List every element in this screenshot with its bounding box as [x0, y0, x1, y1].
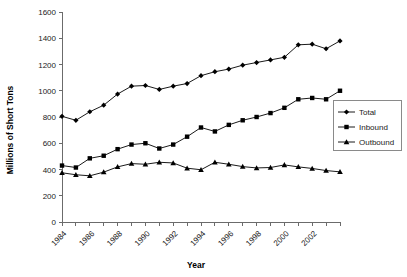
y-tick-label: 600: [43, 139, 57, 148]
data-point-diamond: [185, 81, 190, 86]
series-total: [59, 38, 342, 123]
y-axis: 02004006008001000120014001600: [38, 8, 62, 227]
series-container: [59, 38, 343, 178]
y-tick-label: 400: [43, 166, 57, 175]
data-point-square: [241, 118, 245, 122]
line-chart: 02004006008001000120014001600 1984198619…: [0, 0, 407, 277]
data-point-square: [74, 165, 78, 169]
data-point-square: [171, 142, 175, 146]
x-tick-label: 1990: [133, 229, 152, 248]
data-point-square: [254, 115, 258, 119]
y-tick-label: 1200: [38, 61, 56, 70]
data-point-square: [227, 123, 231, 127]
series-outbound: [59, 159, 343, 178]
data-point-square: [268, 111, 272, 115]
data-point-diamond: [59, 114, 64, 119]
data-point-diamond: [171, 84, 176, 89]
data-point-diamond: [240, 63, 245, 68]
x-tick-label: 1986: [77, 229, 96, 248]
data-point-diamond: [143, 83, 148, 88]
data-point-square: [213, 129, 217, 133]
x-tick-label: 2000: [272, 229, 291, 248]
y-tick-label: 800: [43, 113, 57, 122]
chart-legend: TotalInboundOutbound: [333, 100, 401, 150]
chart-canvas: 02004006008001000120014001600 1984198619…: [0, 0, 407, 277]
data-point-square: [282, 106, 286, 110]
data-point-triangle: [212, 159, 218, 164]
legend-label: Outbound: [359, 138, 394, 147]
y-axis-title: Millions of Short Tons: [5, 85, 15, 174]
legend-label: Inbound: [359, 123, 388, 132]
data-point-diamond: [254, 60, 259, 65]
data-point-diamond: [337, 38, 342, 43]
x-tick-label: 1996: [216, 229, 235, 248]
data-point-triangle: [282, 162, 288, 167]
data-point-diamond: [157, 87, 162, 92]
y-tick-label: 200: [43, 192, 57, 201]
series-line-total: [62, 41, 340, 120]
x-axis: 1984198619881990199219941996199820002002: [49, 222, 340, 248]
data-point-square: [338, 89, 342, 93]
x-axis-title: Year: [187, 260, 206, 270]
x-tick-label: 1994: [188, 229, 207, 248]
data-point-square: [310, 96, 314, 100]
x-tick-label: 2002: [300, 229, 319, 248]
x-tick-label: 1998: [244, 229, 263, 248]
y-tick-label: 1000: [38, 87, 56, 96]
data-point-square: [199, 125, 203, 129]
series-inbound: [60, 89, 342, 170]
y-tick-label: 1600: [38, 8, 56, 17]
data-point-diamond: [268, 57, 273, 62]
x-tick-label: 1984: [49, 229, 68, 248]
x-tick-label: 1992: [161, 229, 180, 248]
data-point-square: [324, 97, 328, 101]
y-tick-label: 1400: [38, 34, 56, 43]
data-point-diamond: [198, 73, 203, 78]
data-point-diamond: [324, 46, 329, 51]
data-point-square: [185, 134, 189, 138]
data-point-diamond: [226, 66, 231, 71]
data-point-square: [157, 146, 161, 150]
data-point-diamond: [212, 69, 217, 74]
data-point-square: [143, 141, 147, 145]
data-point-square: [115, 147, 119, 151]
data-point-square: [296, 97, 300, 101]
data-point-square: [102, 154, 106, 158]
data-point-square: [88, 156, 92, 160]
data-point-diamond: [129, 84, 134, 89]
data-point-square: [60, 163, 64, 167]
legend-marker: [344, 125, 348, 129]
data-point-triangle: [59, 170, 65, 175]
data-point-diamond: [310, 42, 315, 47]
data-point-diamond: [87, 109, 92, 114]
x-tick-label: 1988: [105, 229, 124, 248]
data-point-square: [129, 142, 133, 146]
legend-label: Total: [359, 108, 376, 117]
data-point-diamond: [73, 118, 78, 123]
y-tick-label: 0: [52, 218, 57, 227]
